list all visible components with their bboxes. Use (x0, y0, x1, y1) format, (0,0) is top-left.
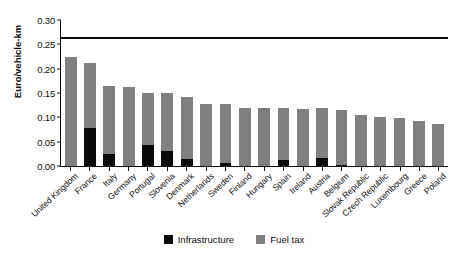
bar-slot (177, 20, 196, 166)
bar-segment-fuel-tax (336, 110, 348, 165)
x-axis-tick-mark (244, 167, 245, 171)
stacked-bar[interactable] (432, 124, 444, 166)
stacked-bar[interactable] (84, 63, 96, 166)
bar-segment-fuel-tax (258, 108, 270, 166)
plot-area: 0.300.250.200.150.100.050.00 (60, 20, 448, 167)
x-axis-tick-slot (79, 167, 98, 171)
stacked-bar[interactable] (278, 108, 290, 166)
bar-slot (158, 20, 177, 166)
bar-slot (312, 20, 331, 166)
x-axis-tick-slot (138, 167, 157, 171)
stacked-bar[interactable] (161, 93, 173, 166)
legend-swatch-fuel-tax (256, 235, 265, 244)
bar-segment-fuel-tax (394, 118, 406, 166)
bar-segment-infrastructure (278, 160, 290, 166)
stacked-bar[interactable] (123, 87, 135, 166)
bar-segment-infrastructure (220, 163, 232, 166)
bar-segment-fuel-tax (432, 124, 444, 166)
stacked-bar[interactable] (297, 109, 309, 166)
bar-segment-fuel-tax (84, 63, 96, 128)
x-axis-tick-slot (273, 167, 292, 171)
x-axis-tick-slot (390, 167, 409, 171)
x-axis-tick-slot (176, 167, 195, 171)
x-axis-tick-mark (128, 167, 129, 171)
x-axis-tick-slot (351, 167, 370, 171)
bar-slot (332, 20, 351, 166)
x-axis-tick-mark (361, 167, 362, 171)
x-axis-tick-mark (283, 167, 284, 171)
bar-segment-infrastructure (316, 158, 328, 166)
stacked-bar[interactable] (181, 97, 193, 166)
x-axis-tick-mark (89, 167, 90, 171)
bar-slot (138, 20, 157, 166)
bar-segment-infrastructure (84, 128, 96, 166)
x-axis-tick-slot (371, 167, 390, 171)
x-axis-tick-mark (322, 167, 323, 171)
x-axis-tick-mark (264, 167, 265, 171)
bar-slot (216, 20, 235, 166)
x-axis-tick-slot (429, 167, 448, 171)
y-axis-title: Euro/vehicle-km (12, 0, 23, 127)
bar-slot (100, 20, 119, 166)
x-axis-tick-mark (70, 167, 71, 171)
x-axis-tick-slot (99, 167, 118, 171)
bar-segment-fuel-tax (413, 121, 425, 166)
x-axis-tick-slot (332, 167, 351, 171)
bar-slot (351, 20, 370, 166)
bar-segment-fuel-tax (123, 87, 135, 166)
stacked-bar[interactable] (220, 104, 232, 166)
legend-swatch-infrastructure (164, 235, 173, 244)
bar-segment-fuel-tax (278, 108, 290, 160)
stacked-bar[interactable] (374, 117, 386, 166)
stacked-bar[interactable] (413, 121, 425, 166)
stacked-bar[interactable] (103, 86, 115, 166)
bar-segment-fuel-tax (103, 86, 115, 154)
stacked-bar[interactable] (336, 110, 348, 166)
chart-legend: Infrastructure Fuel tax (0, 234, 468, 245)
legend-label-infrastructure: Infrastructure (178, 234, 235, 245)
x-axis-tick-slot (118, 167, 137, 171)
bar-segment-fuel-tax (239, 108, 251, 166)
bar-slot (293, 20, 312, 166)
bar-slot (254, 20, 273, 166)
bar-segment-fuel-tax (161, 93, 173, 152)
bar-slot (429, 20, 448, 166)
x-axis-tick-mark (167, 167, 168, 171)
stacked-bar[interactable] (394, 118, 406, 166)
bar-segment-infrastructure (336, 165, 348, 166)
stacked-bar[interactable] (316, 108, 328, 166)
bar-series-group (61, 20, 448, 166)
bar-segment-fuel-tax (316, 108, 328, 158)
x-axis-tick-mark (186, 167, 187, 171)
x-axis-tick-slot (293, 167, 312, 171)
stacked-bar[interactable] (355, 115, 367, 166)
bar-slot (80, 20, 99, 166)
bar-segment-fuel-tax (374, 117, 386, 166)
stacked-bar[interactable] (200, 104, 212, 166)
stacked-bar[interactable] (65, 57, 77, 167)
bar-slot (274, 20, 293, 166)
bar-segment-infrastructure (161, 151, 173, 166)
x-axis-tick-slot (409, 167, 428, 171)
bar-slot (119, 20, 138, 166)
x-axis-tick-mark (303, 167, 304, 171)
chart-figure: Euro/vehicle-km 0.300.250.200.150.100.05… (0, 0, 468, 260)
x-axis-tick-mark (147, 167, 148, 171)
x-axis-tick-mark (109, 167, 110, 171)
stacked-bar[interactable] (142, 93, 154, 166)
x-axis-tick-slot (254, 167, 273, 171)
bar-slot (235, 20, 254, 166)
x-axis-tick-slot (312, 167, 331, 171)
x-axis-tick-slot (196, 167, 215, 171)
x-axis-tick-slot (157, 167, 176, 171)
stacked-bar[interactable] (239, 108, 251, 166)
x-axis-tick-mark (380, 167, 381, 171)
stacked-bar[interactable] (258, 108, 270, 166)
bar-segment-fuel-tax (297, 109, 309, 166)
bar-segment-fuel-tax (65, 57, 77, 167)
x-axis-tick-mark (438, 167, 439, 171)
x-axis-tick-slot (60, 167, 79, 171)
x-axis-tick-slot (235, 167, 254, 171)
x-axis-tick-mark (225, 167, 226, 171)
bar-segment-fuel-tax (142, 93, 154, 145)
